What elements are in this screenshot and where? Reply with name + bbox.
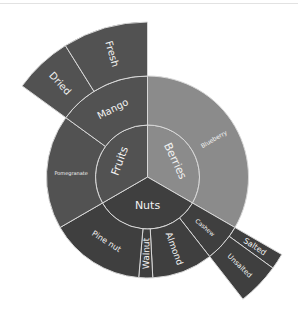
label-walnut: Walnut xyxy=(141,237,152,269)
sunburst-segments xyxy=(22,22,282,299)
label-pomegranate: Pomegranate xyxy=(54,170,87,177)
sunburst-chart: BerriesNutsFruitsBlueberryCashewAlmondWa… xyxy=(0,0,298,317)
label-nuts: Nuts xyxy=(135,199,161,212)
